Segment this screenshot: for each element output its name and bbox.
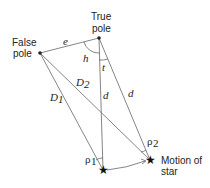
label-D2-sub: 2 (84, 78, 90, 90)
motion-label-2: star (161, 166, 178, 177)
true-pole-dot (97, 36, 101, 40)
true-pole-label-1: True (91, 11, 112, 22)
motion-arrow (107, 161, 145, 170)
label-t: t (102, 61, 106, 73)
false-pole-label-1: False (12, 37, 37, 48)
pole-diagram: ★ ★ True pole False pole Motion of star … (0, 0, 210, 188)
label-d-left: d (103, 89, 109, 101)
true-pole-label-2: pole (92, 23, 111, 34)
angle-rho2-arc (141, 150, 146, 152)
angle-t-arc (99, 59, 108, 60)
label-D2: D (75, 76, 84, 88)
false-pole-dot (38, 51, 42, 55)
motion-label-1: Motion of (161, 155, 202, 166)
label-rho2-sub: 2 (153, 137, 159, 149)
label-D1: D (49, 91, 58, 103)
line-D1 (40, 53, 103, 170)
star-icon-1: ★ (98, 163, 109, 177)
star-icon-2: ★ (145, 153, 156, 167)
line-d-left (99, 38, 103, 170)
false-pole-label-2: pole (13, 48, 32, 59)
label-D1-sub: 1 (58, 93, 64, 105)
label-h: h (83, 52, 89, 64)
label-d-right: d (128, 87, 134, 99)
label-rho1-sub: 1 (91, 155, 97, 167)
label-e: e (63, 35, 68, 47)
line-D2 (40, 53, 150, 160)
